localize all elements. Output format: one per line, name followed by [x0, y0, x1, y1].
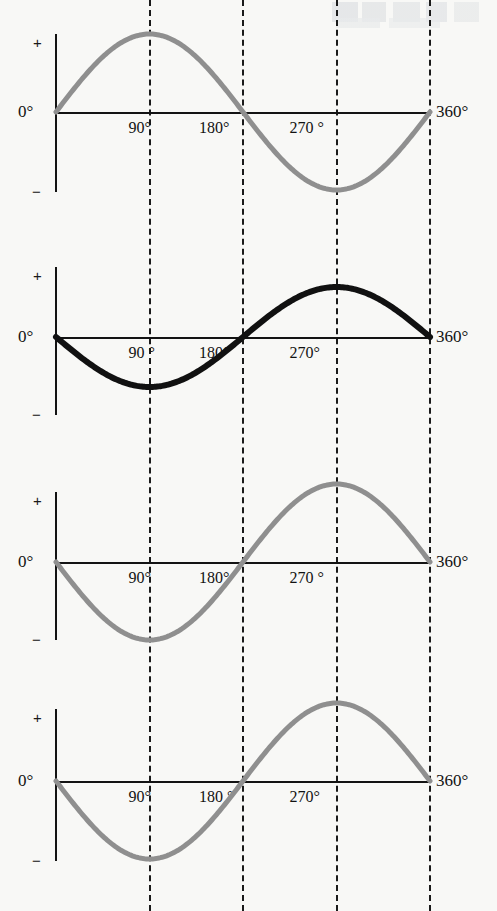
wave-path — [56, 287, 430, 387]
waveform-negative-sine — [0, 478, 497, 656]
sine-wave-figure: +−0°360°90°180°270 °+−0°360°90 °180°270°… — [0, 0, 497, 911]
wave-panel-1: +−0°360°90°180°270 ° — [0, 20, 497, 208]
wave-path — [56, 34, 430, 190]
wave-path — [56, 484, 430, 640]
wave-path — [56, 703, 430, 859]
scan-bleedthrough-artifact — [332, 2, 492, 22]
waveform-inverted-cosine — [0, 253, 497, 431]
wave-panel-2: +−0°360°90 °180°270° — [0, 253, 497, 431]
waveform-sine — [0, 20, 497, 208]
wave-panel-4: +−0°360°90°180 °270° — [0, 695, 497, 877]
waveform-negative-sine — [0, 695, 497, 877]
wave-panel-3: +−0°360°90°180°270 ° — [0, 478, 497, 656]
